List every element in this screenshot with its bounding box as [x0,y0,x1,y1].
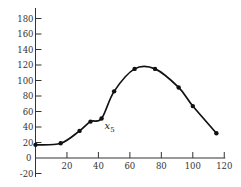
x-tick-label: 60 [124,161,135,171]
data-point [88,119,92,123]
x-tick-label: 100 [185,161,201,171]
data-point [191,104,195,108]
axes [36,8,226,177]
y-tick-label: 0 [26,153,31,163]
data-point [214,131,218,135]
data-point [33,143,37,147]
x-tick-label: 20 [62,161,73,171]
data-point [153,67,157,71]
data-curve [36,66,217,145]
x-axis-ticks: 20406080100120 [62,152,233,171]
x-tick-label: 120 [216,161,232,171]
y-tick-label: 80 [23,91,34,101]
y-tick-label: 180 [17,14,33,24]
data-point [58,141,62,145]
annotation-subscript: 5 [110,126,114,134]
y-tick-label: 60 [23,107,34,117]
data-point [132,67,136,71]
x-tick-label: 80 [156,161,167,171]
data-markers [33,67,218,147]
data-point [176,85,180,89]
y-axis-ticks: -20020406080100120140160180 [17,14,41,179]
y-tick-label: 160 [17,29,33,39]
y-tick-label: 20 [23,138,34,148]
y-tick-label: -20 [20,169,34,179]
x-tick-label: 40 [93,161,104,171]
y-tick-label: 120 [17,60,33,70]
data-point [112,89,116,93]
y-tick-label: 140 [17,45,33,55]
data-point [99,116,103,120]
y-tick-label: 100 [17,76,33,86]
data-point [77,129,81,133]
y-tick-label: 40 [23,122,34,132]
line-chart: -20020406080100120140160180 204060801001… [0,0,241,187]
x5-annotation: x5 [105,120,115,134]
